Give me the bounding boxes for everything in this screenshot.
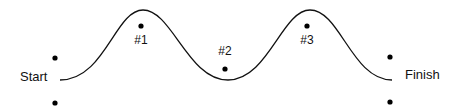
- finish-top-dot: [387, 54, 392, 59]
- finish-bottom-dot: [387, 99, 392, 104]
- checkpoint-3-label: #3: [300, 33, 314, 47]
- checkpoint-2-label: #2: [218, 44, 232, 58]
- start-top-dot: [52, 55, 57, 60]
- start-bottom-dot: [52, 100, 57, 105]
- checkpoint-1-label: #1: [134, 33, 148, 47]
- checkpoint-2-dot: [222, 66, 227, 71]
- track-diagram: Start Finish #1 #2 #3: [0, 0, 461, 111]
- start-label: Start: [20, 69, 48, 84]
- checkpoint-1-dot: [138, 23, 143, 28]
- finish-label: Finish: [405, 67, 440, 82]
- checkpoint-3-dot: [304, 23, 309, 28]
